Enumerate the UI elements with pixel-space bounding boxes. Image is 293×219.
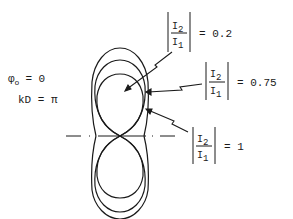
svg-text:= 0.2: = 0.2 [199,28,232,40]
lobe-ratio-075-upper [95,60,145,136]
arrow-ratio-075 [148,84,202,92]
label-ratio-075: I2 I1 = 0.75 [206,62,277,100]
lobe-ratio-1-upper [97,74,143,136]
kd-label: kD = π [18,94,58,106]
pattern-lobes [92,48,149,219]
radiation-pattern-diagram: φo= 0 kD = π I2 I1 = 0.2 I2 I1 = 0.75 I2… [0,0,293,219]
arrow-ratio-1 [148,110,188,132]
label-ratio-02: I2 I1 = 0.2 [168,12,232,52]
svg-text:= 0.75: = 0.75 [237,77,277,89]
leader-arrows [125,52,202,132]
lobe-ratio-02-upper [92,48,149,136]
svg-text:= 1: = 1 [224,141,244,153]
arrow-ratio-02 [127,52,172,89]
lobe-ratio-075-lower [95,136,145,212]
lobe-ratio-02-lower [92,136,149,219]
lobe-ratio-1-lower [97,136,143,198]
svg-text:I1: I1 [172,37,183,51]
svg-text:I1: I1 [210,86,221,100]
svg-text:I1: I1 [197,150,208,164]
label-ratio-1: I2 I1 = 1 [193,127,244,164]
svg-text:I2: I2 [210,69,221,83]
phi-label: φo= 0 [8,73,45,87]
